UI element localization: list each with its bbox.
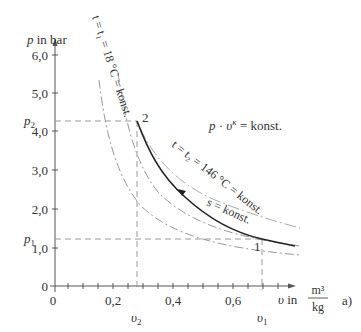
p-v-diagram: 6,0 5,0 4,0 3,0 2,0 1,0 0 0 0,2 0,4 0,6 …	[0, 0, 361, 332]
isotherm-t1-label: t = t₁ = 18 °C = konst.	[89, 14, 135, 119]
x-axis-title: υ in m³ kg	[278, 283, 328, 314]
point-2-label: 2	[142, 110, 149, 125]
x-tick-label: 0,6	[225, 293, 242, 308]
x-unit-numerator: m³	[312, 283, 325, 297]
y-tick-label: 0	[42, 279, 49, 294]
x-tick-labels: 0 0,2 0,4 0,6	[50, 293, 242, 308]
y-tick-labels: 6,0 5,0 4,0 3,0 2,0 1,0 0	[32, 48, 48, 294]
x-axis-arrow-icon	[288, 284, 296, 289]
p1-label: p1	[23, 231, 35, 248]
x-tick-label: 0,2	[105, 293, 121, 308]
p2-label: p2	[23, 113, 35, 130]
point-1-label: 1	[254, 239, 261, 254]
figure-tag: a)	[342, 293, 352, 308]
v2-label: υ2	[131, 310, 141, 327]
svg-text:υ in: υ in	[278, 292, 298, 307]
x-unit-denominator: kg	[312, 300, 324, 314]
y-tick-label: 2,0	[32, 202, 48, 217]
y-tick-label: 6,0	[32, 48, 48, 63]
y-tick-label: 3,0	[32, 163, 48, 178]
y-tick-label: 5,0	[32, 86, 48, 101]
v1-label: υ1	[257, 310, 267, 327]
polytropic-equation: p · υκ = konst.	[208, 117, 282, 133]
x-tick-label: 0	[50, 293, 57, 308]
x-tick-label: 0,4	[165, 293, 182, 308]
y-axis-title: p in bar	[26, 32, 67, 47]
